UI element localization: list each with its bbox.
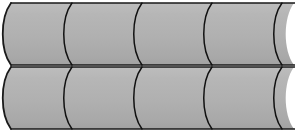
top-row-body-fill [3,3,294,65]
cylinder-row-bottom [3,67,295,129]
figure-canvas [0,0,295,136]
cylinder-row-top [3,3,295,65]
bottom-row-body-fill [3,67,294,129]
cylinder-rows-figure [0,0,295,136]
